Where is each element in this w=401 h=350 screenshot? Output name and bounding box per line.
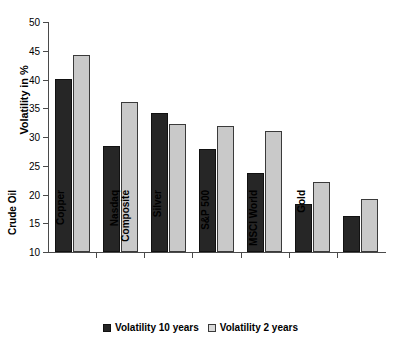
y-tick-label: 50: [29, 17, 40, 28]
legend-swatch-icon: [208, 324, 216, 332]
y-tick-label: 25: [29, 160, 40, 171]
bar: [343, 216, 360, 252]
y-tick-25: 25: [43, 166, 48, 167]
y-tick-label: 40: [29, 74, 40, 85]
x-tick: [289, 253, 290, 258]
chart-legend: Volatility 10 yearsVolatility 2 years: [0, 322, 401, 333]
y-tick-50: 50: [43, 22, 48, 23]
bar: [313, 182, 330, 252]
x-tick: [337, 253, 338, 258]
x-category-label-line: Copper: [55, 190, 66, 260]
y-tick-20: 20: [43, 195, 48, 196]
y-tick-35: 35: [43, 108, 48, 109]
x-category-label-line: Crude Oil: [7, 190, 18, 260]
x-category-label: Silver: [152, 190, 163, 260]
x-category-label-line: Silver: [152, 190, 163, 260]
x-category-label-line: Composite: [120, 190, 131, 260]
x-category-label: Copper: [55, 190, 66, 260]
y-tick-45: 45: [43, 51, 48, 52]
volatility-bar-chart: Volatility in % 101520253035404550 Crude…: [0, 0, 401, 350]
x-category-label: Crude Oil: [7, 190, 18, 260]
plot-area: 101520253035404550 Crude OilCopperNasdaq…: [48, 22, 385, 252]
x-axis-line: [48, 252, 386, 253]
y-tick-label: 10: [29, 247, 40, 258]
x-tick: [96, 253, 97, 258]
x-category-label: S&P 500: [200, 190, 211, 260]
y-tick-15: 15: [43, 223, 48, 224]
legend-label: Volatility 10 years: [115, 322, 199, 333]
y-tick-label: 45: [29, 45, 40, 56]
x-category-label-line: Gold: [296, 190, 307, 260]
x-tick: [192, 253, 193, 258]
bar: [361, 199, 378, 252]
y-axis-line: [48, 22, 49, 253]
x-category-label: MSCI World: [248, 190, 259, 260]
y-tick-label: 35: [29, 103, 40, 114]
y-tick-label: 20: [29, 189, 40, 200]
legend-item[interactable]: Volatility 10 years: [103, 322, 199, 333]
legend-label: Volatility 2 years: [220, 322, 298, 333]
x-category-label: Gold: [296, 190, 307, 260]
bar: [265, 131, 282, 252]
x-category-label-line: MSCI World: [248, 190, 259, 260]
y-tick-10: 10: [43, 252, 48, 253]
x-category-label: NasdaqComposite: [109, 190, 131, 260]
y-tick-label: 30: [29, 132, 40, 143]
x-category-label-line: Nasdaq: [109, 190, 120, 260]
x-tick: [144, 253, 145, 258]
bar: [73, 55, 90, 252]
x-category-label-line: S&P 500: [200, 190, 211, 260]
legend-item[interactable]: Volatility 2 years: [208, 322, 298, 333]
y-tick-30: 30: [43, 137, 48, 138]
x-tick: [241, 253, 242, 258]
bar: [169, 124, 186, 252]
y-tick-label: 15: [29, 218, 40, 229]
legend-swatch-icon: [103, 324, 111, 332]
bar: [217, 126, 234, 253]
y-tick-40: 40: [43, 80, 48, 81]
